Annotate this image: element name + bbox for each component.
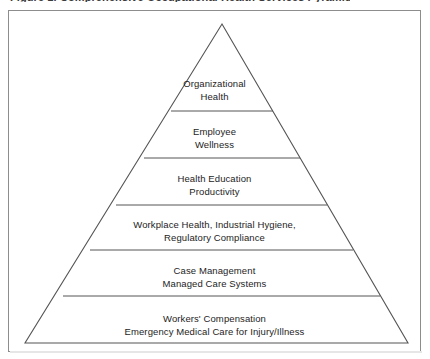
figure-caption-cutoff: Figure 1. Comprehensive Occupational Hea… <box>10 0 350 2</box>
figure-screenshot: Figure 1. Comprehensive Occupational Hea… <box>0 0 430 359</box>
pyramid-diagram: Organizational Health Employee Wellness … <box>8 10 421 352</box>
pyramid-line-art <box>8 10 421 352</box>
pyramid-outline <box>25 24 408 343</box>
